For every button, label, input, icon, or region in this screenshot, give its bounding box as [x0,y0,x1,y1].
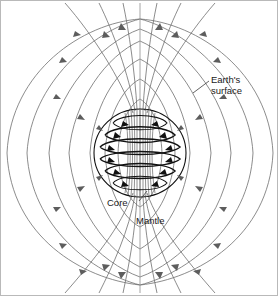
core-label: Core [107,197,128,208]
earth-surface-label-line1: Earth's [211,74,241,85]
core-flux-tube [125,108,155,198]
earth-surface-label-line2: surface [211,85,242,96]
magnetic-field-diagram: Earth's surface Core Mantle [0,0,278,296]
field-diagram-svg: Earth's surface Core Mantle [1,1,277,295]
mantle-label: Mantle [136,215,165,226]
